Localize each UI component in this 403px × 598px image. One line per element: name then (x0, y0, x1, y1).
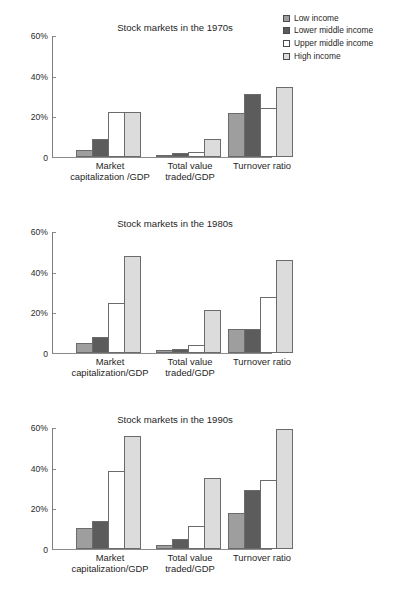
x-axis-group-label-line: Total value (165, 356, 215, 367)
bar-group-bars (156, 232, 221, 353)
y-axis-tick-label: 60% (31, 423, 48, 433)
bar-group: Turnover ratio (228, 232, 296, 353)
bar (172, 153, 189, 157)
y-axis-line (52, 36, 53, 158)
bar (76, 528, 93, 549)
y-axis-tick (53, 428, 56, 429)
bar-group-bars (228, 36, 293, 157)
y-axis-tick-label: 20% (31, 504, 48, 514)
y-axis-tick-label: 20% (31, 308, 48, 318)
bar-group-bars (76, 232, 141, 353)
x-axis-group-label-line: Market (71, 552, 148, 563)
bar (124, 436, 141, 549)
bar (244, 490, 261, 549)
y-axis-line (52, 428, 53, 550)
y-axis-tick-label: 40% (31, 72, 48, 82)
chart-title: Stock markets in the 1970s (60, 22, 290, 33)
y-axis-tick (53, 117, 56, 118)
y-axis-tick-label: 40% (31, 464, 48, 474)
x-axis-group-label: Marketcapitalization /GDP (70, 160, 150, 183)
bar (172, 539, 189, 549)
bar (188, 345, 205, 353)
legend-item-high-income: High income (283, 50, 401, 62)
bar (204, 478, 221, 549)
bar-group: Marketcapitalization /GDP (76, 36, 144, 157)
x-axis-line (52, 549, 272, 550)
chart-panel-1980s: Stock markets in the 1980s020%40%60%Mark… (0, 218, 300, 398)
bar (260, 480, 277, 549)
bar-group: Total valuetraded/GDP (156, 36, 224, 157)
x-axis-group-label: Total valuetraded/GDP (165, 552, 215, 575)
chart-legend: Low income Lower middle income Upper mid… (283, 12, 401, 63)
legend-item-lower-middle-income: Lower middle income (283, 25, 401, 37)
bar-group: Total valuetraded/GDP (156, 428, 224, 549)
x-axis-group-label: Total valuetraded/GDP (165, 356, 215, 379)
x-axis-group-label-line: Market (71, 356, 148, 367)
chart-panel-1970s: Stock markets in the 1970s020%40%60%Mark… (0, 22, 300, 202)
bar (188, 152, 205, 157)
y-axis-tick (53, 273, 56, 274)
x-axis-group-label: Marketcapitalization/GDP (71, 552, 148, 575)
bar (204, 139, 221, 157)
bar-group: Total valuetraded/GDP (156, 232, 224, 353)
bar (188, 526, 205, 549)
bar (108, 303, 125, 353)
x-axis-group-label: Turnover ratio (233, 160, 291, 171)
y-axis-tick (53, 77, 56, 78)
bar (108, 112, 125, 157)
chart-title: Stock markets in the 1980s (60, 218, 290, 229)
chart-title: Stock markets in the 1990s (60, 414, 290, 425)
bar-group: Turnover ratio (228, 428, 296, 549)
x-axis-group-label: Turnover ratio (233, 552, 291, 563)
x-axis-group-label-line: Market (70, 160, 150, 171)
x-axis-group-label-line: Turnover ratio (233, 160, 291, 171)
bar-group: Turnover ratio (228, 36, 296, 157)
bar (260, 297, 277, 353)
plot-area: 020%40%60%Marketcapitalization/GDPTotal … (52, 232, 272, 354)
y-axis-tick-label: 0 (43, 153, 48, 163)
bar (244, 94, 261, 157)
bar (228, 513, 245, 549)
x-axis-group-label-line: traded/GDP (165, 171, 215, 182)
x-axis-group-label: Turnover ratio (233, 356, 291, 367)
x-axis-group-label-line: traded/GDP (165, 367, 215, 378)
legend-swatch-icon (283, 15, 290, 22)
legend-item-label: High income (294, 52, 341, 61)
y-axis-tick-label: 60% (31, 227, 48, 237)
bar-group: Marketcapitalization/GDP (76, 232, 144, 353)
bar (172, 349, 189, 353)
plot-area: 020%40%60%Marketcapitalization /GDPTotal… (52, 36, 272, 158)
y-axis-tick-label: 20% (31, 112, 48, 122)
x-axis-group-label: Marketcapitalization/GDP (71, 356, 148, 379)
legend-item-label: Low income (294, 14, 339, 23)
bar (124, 256, 141, 353)
x-axis-group-label-line: capitalization /GDP (70, 171, 150, 182)
y-axis-tick-label: 0 (43, 545, 48, 555)
y-axis-tick-label: 0 (43, 349, 48, 359)
bar (92, 521, 109, 549)
bar (76, 343, 93, 353)
bar (156, 545, 173, 549)
legend-item-low-income: Low income (283, 12, 401, 24)
y-axis-tick (53, 36, 56, 37)
y-axis-tick (53, 232, 56, 233)
bar (156, 155, 173, 157)
y-axis-tick (53, 469, 56, 470)
bar (92, 337, 109, 353)
bar-group-bars (228, 428, 293, 549)
chart-panel-1990s: Stock markets in the 1990s020%40%60%Mark… (0, 414, 300, 598)
bar (156, 350, 173, 353)
x-axis-group-label-line: Turnover ratio (233, 552, 291, 563)
bar (76, 150, 93, 157)
bar (228, 113, 245, 157)
bar (108, 471, 125, 549)
bar (92, 139, 109, 157)
bar (276, 429, 293, 549)
bar-group-bars (76, 428, 141, 549)
bar-group: Marketcapitalization/GDP (76, 428, 144, 549)
legend-item-label: Upper middle income (294, 39, 373, 48)
y-axis-tick (53, 509, 56, 510)
plot-area: 020%40%60%Marketcapitalization/GDPTotal … (52, 428, 272, 550)
bar-group-bars (156, 428, 221, 549)
x-axis-group-label-line: Total value (165, 160, 215, 171)
